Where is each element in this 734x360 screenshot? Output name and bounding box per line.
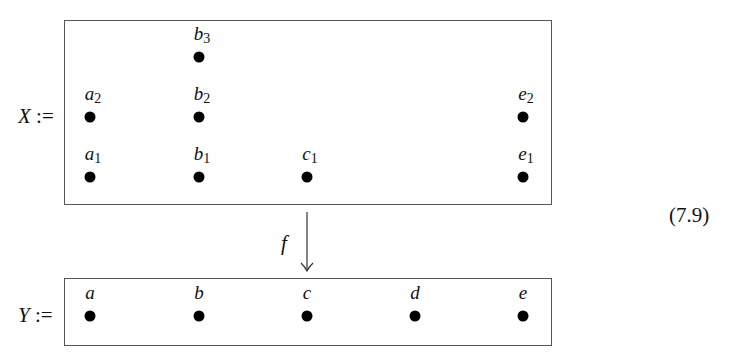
- point-label-e: e: [519, 283, 527, 302]
- point-label-b3: b3: [194, 24, 211, 46]
- point-a: [85, 311, 96, 322]
- map-arrow-icon: [297, 212, 317, 274]
- point-label-a: a: [85, 283, 95, 302]
- point-label-b2: b2: [194, 84, 211, 106]
- point-b3: [194, 52, 205, 63]
- point-label-a1: a1: [85, 144, 102, 166]
- point-label-c1: c1: [302, 144, 317, 166]
- equation-number: (7.9): [669, 205, 709, 226]
- point-b1: [194, 172, 205, 183]
- point-label-a2: a2: [85, 84, 102, 106]
- point-label-e1: e1: [518, 144, 533, 166]
- point-e2: [518, 112, 529, 123]
- point-label-b: b: [194, 283, 204, 302]
- point-a2: [85, 112, 96, 123]
- codomain-set-label: Y :=: [18, 305, 53, 326]
- point-label-b1: b1: [194, 144, 211, 166]
- point-label-d: d: [410, 283, 420, 302]
- codomain-set-name: Y: [18, 303, 30, 327]
- point-b: [194, 311, 205, 322]
- domain-assign-symbol: :=: [36, 104, 54, 128]
- domain-set-name: X: [18, 104, 31, 128]
- codomain-assign-symbol: :=: [35, 303, 53, 327]
- domain-set-label: X :=: [18, 106, 54, 127]
- point-label-e2: e2: [518, 84, 533, 106]
- point-e: [518, 311, 529, 322]
- point-d: [410, 311, 421, 322]
- point-c1: [302, 172, 313, 183]
- point-a1: [85, 172, 96, 183]
- point-c: [302, 311, 313, 322]
- point-label-c: c: [303, 283, 311, 302]
- point-e1: [518, 172, 529, 183]
- point-b2: [194, 112, 205, 123]
- map-label: f: [281, 233, 287, 254]
